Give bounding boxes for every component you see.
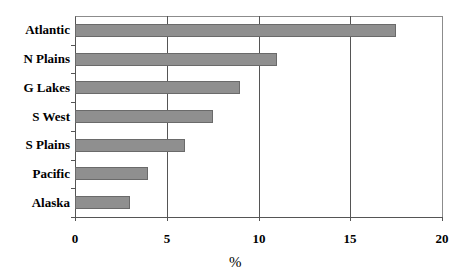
x-tick-mark: [442, 217, 443, 221]
x-tick-mark: [259, 217, 260, 221]
y-tick-mark: [71, 160, 75, 161]
bar-chart: % 05101520AtlanticN PlainsG LakesS WestS…: [0, 0, 461, 279]
category-label: Atlantic: [0, 22, 70, 38]
x-tick-label: 0: [60, 231, 90, 247]
bar-atlantic: [75, 24, 396, 37]
x-tick-label: 5: [152, 231, 182, 247]
x-tick-mark: [350, 217, 351, 221]
bar-s-plains: [75, 139, 185, 152]
bar-g-lakes: [75, 81, 240, 94]
x-axis-label: %: [229, 254, 242, 271]
x-tick-mark: [167, 217, 168, 221]
bar-alaska: [75, 196, 130, 209]
bar-pacific: [75, 167, 148, 180]
y-tick-mark: [71, 102, 75, 103]
x-tick-label: 20: [427, 231, 457, 247]
y-tick-mark: [71, 131, 75, 132]
category-label: N Plains: [0, 51, 70, 67]
y-tick-mark: [71, 45, 75, 46]
bar-n-plains: [75, 53, 277, 66]
category-label: Alaska: [0, 195, 70, 211]
category-label: Pacific: [0, 166, 70, 182]
bar-s-west: [75, 110, 213, 123]
y-tick-mark: [71, 188, 75, 189]
x-tick-mark: [75, 217, 76, 221]
y-tick-mark: [71, 73, 75, 74]
category-label: G Lakes: [0, 80, 70, 96]
category-label: S West: [0, 109, 70, 125]
category-label: S Plains: [0, 137, 70, 153]
gridline: [350, 16, 351, 217]
x-tick-label: 10: [244, 231, 274, 247]
x-tick-label: 15: [335, 231, 365, 247]
gridline: [259, 16, 260, 217]
y-tick-mark: [71, 217, 75, 218]
